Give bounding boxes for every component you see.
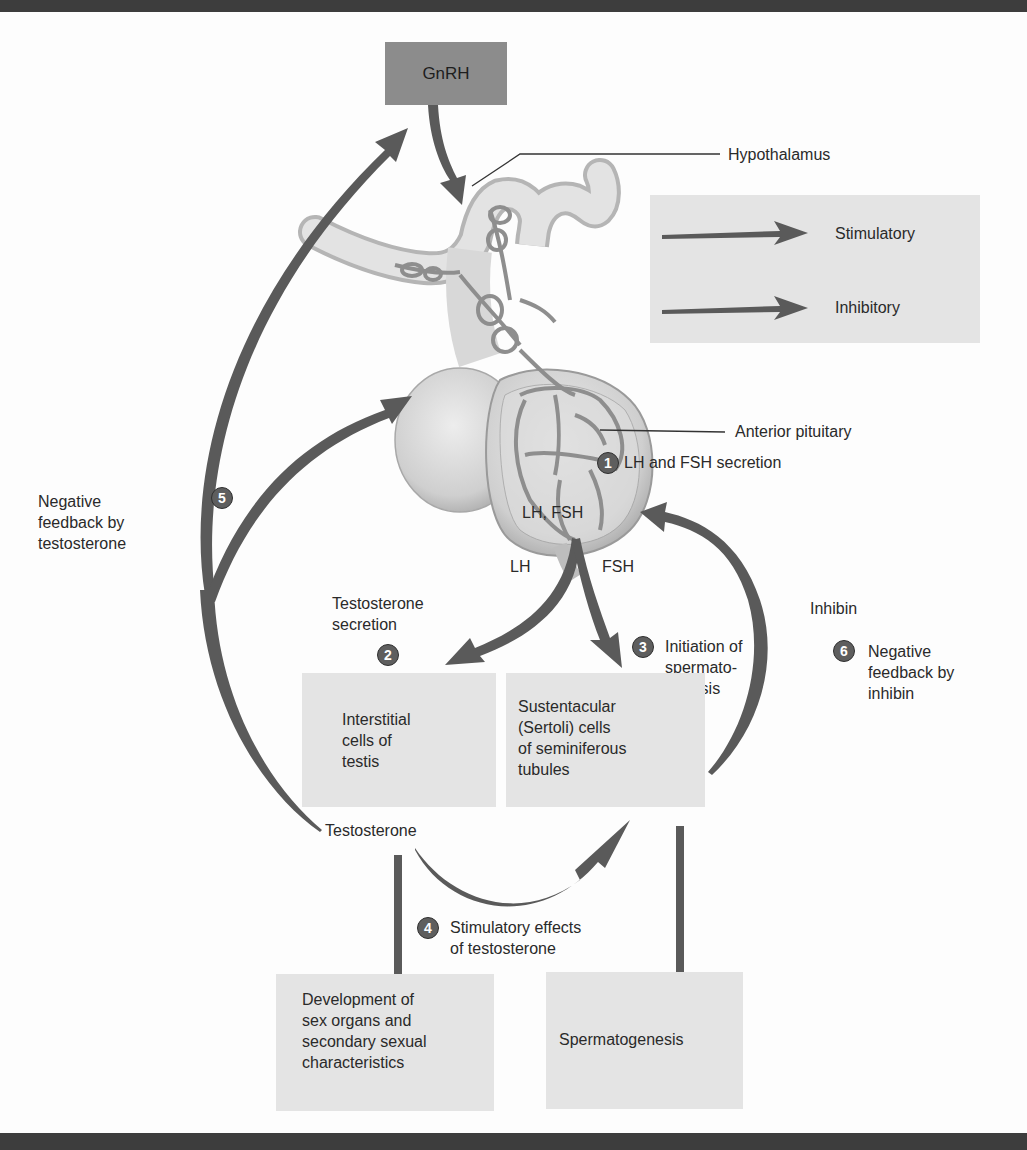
development-label: Development of sex organs and secondary … (302, 989, 427, 1073)
hypothalamus-illustration (315, 175, 604, 360)
stimulatory-arrow-icon (662, 221, 808, 245)
spermatogenesis-box: Spermatogenesis (546, 972, 743, 1109)
inhibin-label: Inhibin (810, 598, 857, 619)
testosterone-label: Testosterone (325, 820, 417, 841)
step-6-label: Negative feedback by inhibin (868, 641, 954, 704)
step-4-label: Stimulatory effects of testosterone (450, 917, 581, 959)
step-1-label: LH and FSH secretion (624, 452, 781, 473)
legend-box: Stimulatory Inhibitory (650, 195, 980, 343)
step-3-badge: 3 (632, 636, 654, 658)
hypothalamus-label: Hypothalamus (728, 144, 830, 165)
step-5-badge: 5 (211, 487, 233, 509)
legend-arrows (650, 195, 980, 343)
spermatogenesis-label: Spermatogenesis (559, 1029, 684, 1050)
step-4-badge: 4 (417, 917, 439, 939)
inhibitory-arrow-icon (662, 296, 808, 320)
testosterone-feedback-pituitary-arrow (205, 396, 412, 602)
sertoli-cells-label: Sustentacular (Sertoli) cells of seminif… (518, 696, 627, 780)
legend-inhibitory-label: Inhibitory (835, 299, 900, 317)
lh-label: LH (510, 556, 530, 577)
gnrh-label: GnRH (422, 64, 469, 84)
gnrh-arrow (428, 105, 466, 205)
interstitial-cells-box: Interstitial cells of testis (302, 673, 496, 807)
gnrh-box: GnRH (385, 42, 507, 105)
testosterone-stimulatory-arrow (415, 820, 630, 906)
fsh-label: FSH (602, 556, 634, 577)
legend-stimulatory-label: Stimulatory (835, 225, 915, 243)
testosterone-feedback-hypothalamus-arrow (201, 128, 408, 595)
development-box: Development of sex organs and secondary … (276, 974, 494, 1111)
step-2-label: Testosterone secretion (332, 593, 424, 635)
interstitial-cells-label: Interstitial cells of testis (342, 709, 410, 772)
step-5-label: Negative feedback by testosterone (38, 491, 126, 554)
anterior-pituitary-label: Anterior pituitary (735, 421, 852, 442)
sertoli-cells-box: Sustentacular (Sertoli) cells of seminif… (506, 673, 705, 807)
step-2-badge: 2 (377, 644, 399, 666)
lh-fsh-label: LH, FSH (522, 502, 583, 523)
step-6-badge: 6 (833, 640, 855, 662)
step-1-badge: 1 (597, 452, 619, 474)
bottom-border-bar (0, 1133, 1027, 1150)
